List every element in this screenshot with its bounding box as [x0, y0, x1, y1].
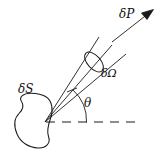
- physics-diagram-figure: δS δΩ δP θ: [0, 0, 162, 162]
- cone-axis-line: [45, 45, 112, 122]
- power-flux-label: δP: [119, 8, 134, 20]
- solid-angle-label: δΩ: [101, 68, 117, 79]
- diagram-canvas: [0, 0, 162, 162]
- theta-angle-label: θ: [84, 97, 91, 109]
- surface-element-label: δS: [18, 83, 33, 95]
